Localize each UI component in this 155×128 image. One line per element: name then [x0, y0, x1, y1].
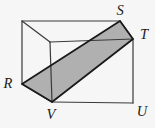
box-edge-back_top_left-front_top_left — [22, 21, 50, 42]
vertex-label-U: U — [137, 103, 149, 119]
vertex-label-V: V — [47, 106, 58, 122]
prism-cross-section-figure: STRVU — [0, 0, 155, 128]
diagram-canvas: STRVU — [0, 0, 155, 128]
vertex-label-T: T — [140, 26, 149, 42]
vertex-label-R: R — [3, 75, 13, 91]
box-edge-U-V — [52, 102, 133, 103]
vertex-label-S: S — [116, 2, 124, 18]
